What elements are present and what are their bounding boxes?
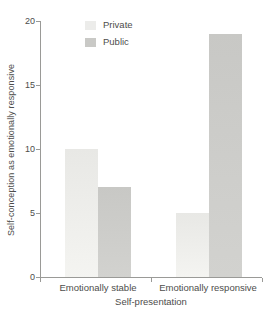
y-tick-label-0: 0 [12, 272, 35, 283]
y-tick-label-15: 15 [12, 80, 35, 91]
y-tick-20 [36, 21, 40, 22]
y-tick-label-10: 10 [12, 144, 35, 155]
y-tick-10 [36, 149, 40, 150]
y-tick-5 [36, 213, 40, 214]
legend-item-public: Public [85, 37, 133, 47]
bar-public-0 [98, 187, 131, 277]
y-axis-line [40, 21, 41, 278]
y-tick-label-5: 5 [12, 208, 35, 219]
public-swatch-icon [85, 38, 96, 47]
x-category-label-responsive: Emotionally responsive [143, 282, 273, 293]
bar-chart-figure: Self-conception as emotionally responsiv… [0, 0, 278, 318]
y-tick-15 [36, 85, 40, 86]
legend-item-private: Private [85, 20, 133, 30]
private-swatch-icon [85, 21, 96, 30]
legend-label-private: Private [103, 20, 133, 30]
x-axis-label: Self-presentation [40, 296, 262, 307]
bar-private-1 [176, 213, 209, 277]
legend-label-public: Public [103, 37, 129, 47]
y-tick-label-20: 20 [12, 16, 35, 27]
bar-public-1 [209, 34, 242, 277]
bar-private-0 [65, 149, 98, 277]
chart-legend: Private Public [85, 20, 133, 54]
